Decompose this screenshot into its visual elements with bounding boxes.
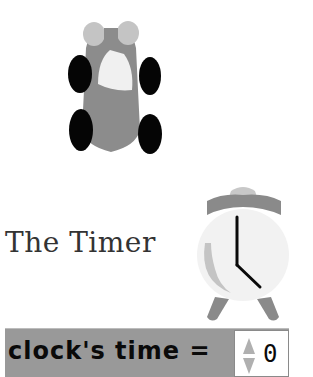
car-wheel-rear-left [69,109,93,151]
car-wheel-rear-right [138,114,162,154]
alarm-clock-icon[interactable] [193,185,293,325]
spinner-down-arrow[interactable] [243,358,255,374]
watcher-value: 0 [263,340,277,368]
stage-title: The Timer [5,226,156,259]
car-wheel-front-right [139,57,161,95]
clock-left-leg [207,297,229,321]
car-right-headlight [117,21,139,45]
spinner-up-arrow[interactable] [243,338,255,354]
watcher-value-box[interactable]: 0 [234,330,289,377]
car-top-view-icon[interactable] [58,20,164,155]
car-left-headlight [83,22,105,46]
watcher-label: clock's time = [8,337,211,365]
car-hood [104,28,118,42]
clock-right-leg [257,297,279,321]
car-wheel-front-left [68,55,92,93]
variable-watcher: clock's time = 0 [5,328,289,377]
up-down-arrows-icon[interactable] [242,337,256,375]
